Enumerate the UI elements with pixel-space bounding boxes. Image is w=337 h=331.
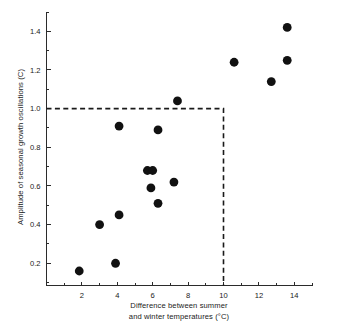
y-tick-label: 1.0 [30, 104, 41, 113]
data-point [283, 23, 292, 32]
y-axis-tick-labels: 0.20.40.60.81.01.21.4 [30, 27, 41, 268]
data-point [115, 211, 124, 220]
x-tick-label: 12 [255, 291, 263, 300]
x-axis-tick-labels: 2468101214 [80, 291, 299, 300]
y-tick-label: 0.4 [30, 220, 41, 229]
data-point [75, 267, 84, 276]
x-tick-label: 14 [290, 291, 298, 300]
data-point [95, 220, 104, 229]
data-point [148, 166, 157, 175]
x-tick-label: 10 [219, 291, 227, 300]
data-point [115, 122, 124, 131]
scatter-plot-figure: Amplitude of seasonal growth oscillation… [0, 0, 337, 331]
data-point [283, 56, 292, 65]
data-point [230, 58, 239, 67]
data-point [173, 97, 182, 106]
axes [47, 12, 313, 286]
x-tick-label: 6 [151, 291, 155, 300]
data-point [154, 126, 163, 135]
data-point [111, 259, 120, 268]
data-points [75, 23, 292, 275]
y-tick-label: 0.6 [30, 182, 41, 191]
x-axis-ticks [64, 282, 312, 286]
threshold-annotation [47, 109, 224, 286]
y-tick-label: 0.8 [30, 143, 41, 152]
y-axis-ticks [47, 12, 51, 283]
y-tick-label: 1.4 [30, 27, 41, 36]
plot-area: 2468101214 0.20.40.60.81.01.21.4 [0, 0, 337, 331]
data-point [147, 183, 156, 192]
y-tick-label: 1.2 [30, 66, 41, 75]
data-point [154, 199, 163, 208]
x-tick-label: 2 [80, 291, 84, 300]
x-tick-label: 8 [186, 291, 190, 300]
x-tick-label: 4 [115, 291, 119, 300]
data-point [170, 178, 179, 187]
data-point [267, 77, 276, 86]
y-tick-label: 0.2 [30, 259, 41, 268]
threshold-dashed-line [47, 109, 224, 286]
